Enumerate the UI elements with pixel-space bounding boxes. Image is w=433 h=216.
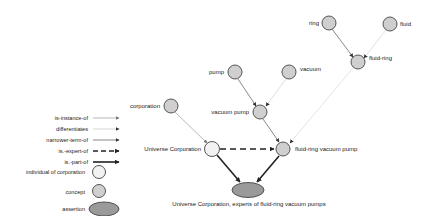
edge-vacuum-to-vacuum-pump [266, 79, 286, 106]
node-label: vacuum [300, 66, 321, 72]
node-label: corporation [130, 103, 160, 109]
concept-circle-icon[interactable] [383, 17, 397, 31]
concept-circle-icon[interactable] [282, 65, 296, 79]
node-label: ring [309, 20, 319, 26]
legend-label: differentiates [56, 126, 88, 132]
legend: is-instance-of differentiates narrower-t… [26, 115, 119, 216]
edge-fluid-to-fluid-ring [364, 30, 386, 58]
edge-fluid-ring-to-frvp [290, 68, 353, 143]
node-label: fluid-ring vacuum pump [295, 146, 358, 152]
node-label: fluid [400, 21, 411, 27]
concept-circle-icon [93, 185, 106, 198]
edge-universe-part-of-assertion [217, 155, 240, 182]
concept-circle-icon[interactable] [253, 105, 267, 119]
concept-circle-icon[interactable] [276, 142, 290, 156]
edge-frvp-part-of-assertion [257, 156, 279, 182]
node-assertion[interactable]: Universe Corporation, experts of fluid-r… [172, 183, 325, 208]
node-pump[interactable]: pump [209, 65, 242, 79]
node-vacuum[interactable]: vacuum [282, 65, 321, 79]
node-label: Universe Corporation [144, 146, 201, 152]
legend-label: concept [65, 189, 85, 195]
legend-item-assertion: assertion [62, 202, 119, 216]
legend-item-is-part-of: is.-part-of [64, 159, 119, 165]
edge-vacuum-pump-to-frvp [263, 119, 279, 142]
legend-label: assertion [62, 206, 85, 212]
node-fluid[interactable]: fluid [383, 17, 411, 31]
edge-ring-to-fluid-ring [332, 29, 353, 57]
legend-label: is.-expert-of [58, 148, 88, 154]
legend-item-individual: individual of corporation [26, 166, 106, 179]
edge-pump-to-vacuum-pump [238, 79, 256, 106]
node-label: Universe Corporation, experts of fluid-r… [172, 201, 325, 207]
assertion-ellipse-icon[interactable] [232, 183, 264, 198]
concept-diagram: is-instance-of differentiates narrower-t… [0, 0, 433, 216]
nodes: ring fluid fluid-ring pump vacuum vacuum… [130, 16, 411, 207]
node-fluid-ring[interactable]: fluid-ring [351, 55, 392, 69]
node-vacuum-pump[interactable]: vacuum pump [211, 105, 267, 119]
node-universe-corporation[interactable]: Universe Corporation [144, 142, 219, 157]
concept-circle-icon[interactable] [322, 16, 336, 30]
node-label: fluid-ring [369, 55, 392, 61]
legend-item-narrower-term-of: narrower-term-of [46, 137, 119, 143]
legend-item-concept: concept [65, 185, 105, 198]
node-label: pump [209, 69, 225, 75]
node-fluid-ring-vacuum-pump[interactable]: fluid-ring vacuum pump [276, 142, 358, 156]
legend-label: individual of corporation [26, 169, 85, 175]
node-corporation[interactable]: corporation [130, 99, 178, 113]
node-ring[interactable]: ring [309, 16, 336, 30]
concept-circle-icon[interactable] [164, 99, 178, 113]
legend-label: is.-part-of [64, 159, 88, 165]
concept-circle-icon[interactable] [228, 65, 242, 79]
edge-corporation-to-universe [175, 112, 207, 143]
legend-item-is-instance-of: is-instance-of [55, 115, 119, 121]
assertion-ellipse-icon [89, 202, 119, 216]
legend-item-is-expert-of: is.-expert-of [58, 148, 119, 154]
node-label: vacuum pump [211, 109, 249, 115]
edges [175, 29, 386, 182]
individual-circle-icon[interactable] [205, 142, 220, 157]
individual-circle-icon [93, 166, 106, 179]
legend-label: narrower-term-of [46, 137, 88, 143]
legend-label: is-instance-of [55, 115, 89, 121]
legend-item-differentiates: differentiates [56, 126, 119, 132]
concept-circle-icon[interactable] [351, 55, 365, 69]
